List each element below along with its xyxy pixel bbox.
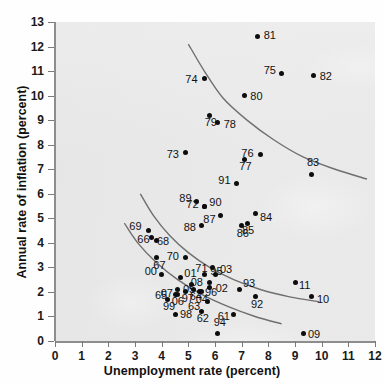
y-tick-4 (48, 243, 54, 244)
data-point-label-70: 70 (167, 250, 179, 262)
data-point-label-89: 89 (179, 192, 191, 204)
y-tick-11 (48, 71, 54, 72)
data-point-label-77: 77 (239, 160, 251, 172)
x-tick-label-8: 8 (258, 349, 278, 363)
data-point-83 (309, 172, 314, 177)
phillips-curves-layer (0, 0, 384, 384)
y-tick-6 (48, 194, 54, 195)
x-tick-label-11: 11 (338, 349, 358, 363)
x-tick-label-5: 5 (178, 349, 198, 363)
y-tick-8 (48, 145, 54, 146)
y-tick-0 (48, 341, 54, 342)
data-point-label-79: 79 (205, 116, 217, 128)
data-point-label-09: 09 (308, 328, 320, 340)
data-point-84 (253, 211, 258, 216)
data-point-label-90: 90 (209, 196, 221, 208)
data-point-label-07: 07 (161, 287, 173, 299)
x-tick-label-9: 9 (285, 349, 305, 363)
data-point-label-73: 73 (167, 148, 179, 160)
data-point-label-84: 84 (260, 211, 272, 223)
data-point-label-75: 75 (264, 64, 276, 76)
x-tick-1 (82, 341, 83, 347)
x-tick-label-6: 6 (205, 349, 225, 363)
data-point-label-00: 00 (145, 265, 157, 277)
x-tick-label-12: 12 (365, 349, 384, 363)
y-axis-line (54, 22, 56, 341)
data-point-74 (202, 76, 207, 81)
data-point-01 (178, 275, 183, 280)
y-tick-12 (48, 47, 54, 48)
y-tick-3 (48, 267, 54, 268)
data-point-label-82: 82 (320, 70, 332, 82)
data-point-08 (207, 280, 212, 285)
data-point-label-04: 04 (196, 293, 208, 305)
x-tick-6 (215, 341, 216, 347)
data-point-label-68: 68 (157, 235, 169, 247)
data-point-label-83: 83 (307, 156, 319, 168)
x-tick-label-4: 4 (152, 349, 172, 363)
data-point-69 (146, 228, 151, 233)
x-tick-label-1: 1 (72, 349, 92, 363)
data-point-09 (301, 331, 306, 336)
y-tick-13 (48, 22, 54, 23)
data-point-02 (207, 285, 212, 290)
x-tick-11 (348, 341, 349, 347)
x-tick-3 (135, 341, 136, 347)
data-point-label-02: 02 (216, 282, 228, 294)
y-tick-1 (48, 316, 54, 317)
data-point-label-03: 03 (220, 263, 232, 275)
data-point-label-81: 81 (264, 29, 276, 41)
x-tick-7 (242, 341, 243, 347)
x-tick-label-7: 7 (232, 349, 252, 363)
y-tick-10 (48, 96, 54, 97)
x-tick-label-2: 2 (98, 349, 118, 363)
x-axis-title: Unemployment rate (percent) (0, 364, 384, 378)
data-point-label-62: 62 (197, 312, 209, 324)
data-point-label-78: 78 (224, 118, 236, 130)
data-point-label-88: 88 (184, 221, 196, 233)
data-point-label-08: 08 (191, 276, 203, 288)
x-tick-5 (188, 341, 189, 347)
data-point-label-11: 11 (299, 279, 310, 291)
middle-phillips-curve (140, 194, 319, 302)
x-tick-10 (322, 341, 323, 347)
data-point-80 (242, 93, 247, 98)
data-point-10 (309, 294, 314, 299)
phillips-curve-figure: 6162636465666768697071727374757677787980… (0, 0, 384, 384)
x-tick-8 (268, 341, 269, 347)
x-tick-label-10: 10 (312, 349, 332, 363)
x-tick-4 (162, 341, 163, 347)
y-tick-2 (48, 292, 54, 293)
data-point-label-10: 10 (317, 293, 329, 305)
x-tick-0 (55, 341, 56, 347)
data-point-label-87: 87 (203, 213, 215, 225)
upper-phillips-curve (188, 44, 367, 179)
x-tick-12 (375, 341, 376, 347)
data-point-label-94: 94 (214, 316, 226, 328)
x-tick-2 (108, 341, 109, 347)
data-point-label-98: 98 (180, 308, 192, 320)
y-tick-5 (48, 218, 54, 219)
data-point-03 (213, 272, 218, 277)
data-point-11 (293, 280, 298, 285)
data-point-label-06: 06 (172, 295, 184, 307)
data-point-73 (183, 150, 188, 155)
x-tick-9 (295, 341, 296, 347)
data-point-label-66: 66 (137, 233, 149, 245)
data-point-label-74: 74 (185, 73, 197, 85)
x-tick-label-3: 3 (125, 349, 145, 363)
data-point-label-80: 80 (250, 90, 262, 102)
data-point-label-93: 93 (243, 277, 255, 289)
data-point-61 (231, 312, 236, 317)
data-point-label-91: 91 (218, 174, 230, 186)
y-axis-title: Annual rate of inflation (percent) (15, 22, 29, 342)
data-point-label-69: 69 (129, 220, 141, 232)
y-tick-9 (48, 120, 54, 121)
data-point-label-92: 92 (251, 298, 263, 310)
data-point-90 (202, 204, 207, 209)
x-tick-label-0: 0 (45, 349, 65, 363)
data-point-89 (194, 199, 199, 204)
data-point-label-86: 86 (237, 227, 249, 239)
data-point-76 (258, 152, 263, 157)
data-point-93 (237, 287, 242, 292)
